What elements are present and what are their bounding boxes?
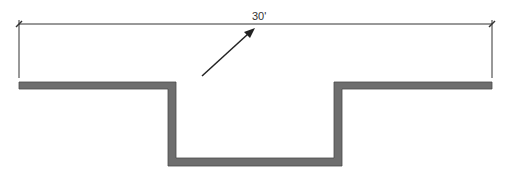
channel-diagram: 30' [0,0,508,171]
dimension-annotation [16,20,495,78]
wall-profile [19,82,492,166]
dimension-label: 30' [252,10,266,22]
arrow-icon [202,28,255,76]
